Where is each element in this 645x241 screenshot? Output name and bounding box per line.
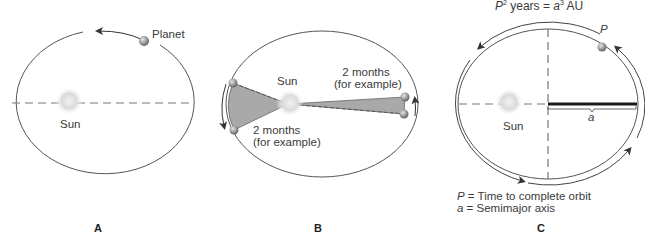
semimajor-label: a: [588, 111, 594, 123]
panel-letter-a: A: [94, 222, 102, 234]
left-sector-label-line1: 2 months: [253, 124, 321, 136]
formula-unit: AU: [564, 0, 583, 13]
planet-icon: [401, 93, 410, 102]
motion-arrow-a: [99, 31, 143, 40]
sun-label: Sun: [277, 75, 297, 87]
sun-label: Sun: [503, 120, 523, 132]
panel-a: [12, 31, 194, 174]
formula-P: P: [495, 0, 503, 13]
motion-arrow-b-right: [415, 100, 416, 116]
sun-label: Sun: [60, 118, 80, 130]
sun-icon: [276, 89, 304, 117]
legend-P-symbol: P: [457, 190, 465, 202]
sector-right: [288, 97, 405, 114]
kepler-third-law-formula: P2 years = a3 AU: [495, 0, 583, 12]
planet-icon: [598, 43, 607, 52]
panel-letter-c: C: [537, 222, 545, 234]
motion-arrow-b-left: [222, 84, 226, 126]
planet-icon: [139, 36, 149, 46]
planet-icon: [230, 126, 239, 135]
panel-b: [222, 31, 418, 177]
planet-label: Planet: [152, 28, 185, 40]
formula-mid: years =: [507, 0, 553, 13]
legend-semimajor: a = Semimajor axis: [457, 202, 555, 214]
planet-icon: [400, 110, 409, 119]
legend-period: P = Time to complete orbit: [457, 190, 591, 202]
sun-icon: [55, 87, 83, 115]
legend-a-text: = Semimajor axis: [463, 202, 555, 214]
formula-a: a: [553, 0, 560, 13]
planet-icon: [229, 79, 238, 88]
left-sector-label: 2 months (for example): [253, 124, 321, 148]
legend-P-text: = Time to complete orbit: [465, 190, 591, 202]
left-sector-label-line2: (for example): [253, 136, 321, 148]
sun-icon: [495, 88, 523, 116]
right-sector-label-line2: (for example): [334, 78, 398, 90]
panel-letter-b: B: [314, 222, 322, 234]
right-sector-label: 2 months (for example): [334, 66, 398, 90]
right-sector-label-line1: 2 months: [334, 66, 398, 78]
panel-c: [455, 22, 644, 185]
motion-arrow-c-right: [617, 48, 645, 138]
planet-period-label: P: [600, 23, 608, 35]
